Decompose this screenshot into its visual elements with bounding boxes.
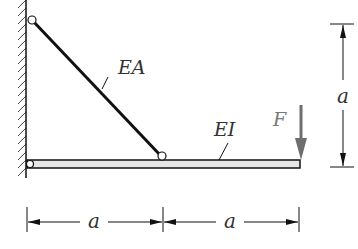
vertical-dim-label: a — [337, 84, 349, 108]
ei-label: EI — [213, 118, 236, 140]
force-label: F — [272, 108, 287, 130]
beam-ei — [27, 160, 300, 168]
horizontal-dimension — [27, 207, 299, 232]
ea-leader — [102, 77, 108, 89]
beam-wall-pin — [27, 161, 34, 168]
top-pin — [28, 16, 36, 24]
bar-beam-pin — [158, 152, 166, 160]
bar-ea — [32, 20, 161, 156]
ei-leader — [219, 143, 228, 160]
ea-label: EA — [117, 56, 146, 78]
horizontal-dim-left-label: a — [88, 209, 100, 233]
wall-support — [18, 0, 26, 178]
horizontal-dim-right-label: a — [224, 209, 236, 233]
force-arrow — [295, 105, 307, 160]
structure-diagram: EA EI F a a a — [0, 0, 358, 249]
